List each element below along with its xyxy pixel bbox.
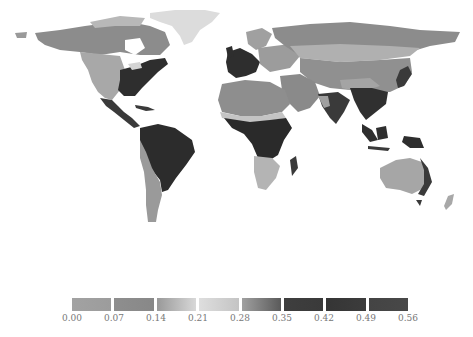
world-map — [0, 0, 473, 240]
colorbar-segment-8 — [369, 298, 408, 311]
region-tasmania — [416, 200, 422, 206]
colorbar-tick-2: 0.14 — [146, 313, 166, 323]
region-southern-africa — [254, 156, 280, 190]
region-borneo — [376, 126, 388, 140]
colorbar-tick-0: 0.00 — [62, 313, 82, 323]
region-australia-interior — [380, 158, 428, 194]
colorbar-ticks: 0.00 0.07 0.14 0.21 0.28 0.35 0.42 0.49 … — [60, 313, 420, 327]
region-north-america-east — [118, 58, 168, 96]
colorbar-segment-5 — [242, 298, 281, 311]
region-indonesia — [362, 124, 378, 142]
colorbar-segment-4 — [199, 298, 238, 311]
region-caribbean — [135, 105, 155, 111]
colorbar-segment-7 — [326, 298, 365, 311]
colorbar-tick-4: 0.28 — [230, 313, 250, 323]
region-new-guinea — [402, 136, 424, 148]
region-madagascar — [290, 156, 298, 176]
region-java — [368, 146, 390, 151]
region-alaska-tip — [15, 32, 27, 38]
colorbar-tick-8: 0.56 — [398, 313, 418, 323]
region-india-west — [318, 96, 330, 108]
colorbar — [72, 298, 408, 311]
region-central-america — [100, 98, 140, 128]
colorbar-tick-7: 0.49 — [356, 313, 376, 323]
region-central-africa — [224, 118, 292, 160]
region-new-zealand — [444, 194, 454, 210]
region-scandinavia — [246, 28, 272, 50]
colorbar-tick-1: 0.07 — [104, 313, 124, 323]
region-southeast-asia — [350, 88, 388, 120]
colorbar-tick-3: 0.21 — [188, 313, 208, 323]
region-sahara — [218, 80, 290, 116]
colorbar-segment-3 — [157, 298, 196, 311]
region-north-america-west — [80, 52, 125, 100]
colorbar-segment-6 — [284, 298, 323, 311]
colorbar-segment-1 — [72, 298, 111, 311]
colorbar-segment-2 — [114, 298, 153, 311]
colorbar-tick-6: 0.42 — [314, 313, 334, 323]
colorbar-tick-5: 0.35 — [272, 313, 292, 323]
